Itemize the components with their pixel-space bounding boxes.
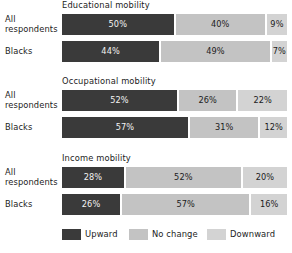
segment-value-label: 9% — [270, 20, 283, 29]
group-title: Income mobility — [62, 153, 131, 163]
segment-value-label: 16% — [260, 200, 279, 209]
legend-item: Downward — [207, 228, 275, 240]
segment-value-label: 26% — [198, 96, 217, 105]
legend-swatch-upward — [62, 229, 81, 240]
bar-segment-upward: 26% — [62, 194, 120, 215]
row-label: Allrespondents — [5, 91, 60, 110]
group-title: Occupational mobility — [62, 76, 156, 86]
legend-swatch-downward — [207, 229, 226, 240]
group-title: Educational mobility — [62, 0, 150, 10]
legend-item: Upward — [62, 228, 118, 240]
legend-label: Downward — [230, 229, 275, 239]
bar-segment-nochange: 31% — [190, 117, 259, 138]
stacked-bar-chart: Educational mobilityAllrespondents50%40%… — [0, 0, 292, 253]
chart-legend: UpwardNo changeDownward — [0, 228, 292, 242]
bar-segment-nochange: 52% — [126, 167, 241, 188]
row-label-line: Blacks — [5, 47, 60, 57]
segment-value-label: 22% — [253, 96, 272, 105]
chart-row: Allrespondents52%26%22% — [0, 90, 292, 111]
segment-value-label: 40% — [211, 20, 230, 29]
bar-segment-nochange: 26% — [179, 90, 236, 111]
bar-segment-downward: 16% — [251, 194, 287, 215]
bar-track: 28%52%20% — [62, 167, 287, 188]
bar-segment-upward: 52% — [62, 90, 177, 111]
bar-track: 44%49%7% — [62, 41, 287, 62]
bar-segment-upward: 44% — [62, 41, 159, 62]
bar-segment-upward: 50% — [62, 14, 174, 35]
segment-value-label: 28% — [84, 173, 103, 182]
segment-value-label: 12% — [264, 123, 283, 132]
segment-value-label: 52% — [110, 96, 129, 105]
segment-value-label: 52% — [174, 173, 193, 182]
legend-label: Upward — [85, 229, 118, 239]
chart-row: Allrespondents50%40%9% — [0, 14, 292, 35]
legend-item: No change — [129, 228, 198, 240]
segment-value-label: 49% — [206, 47, 225, 56]
bar-segment-downward: 12% — [260, 117, 287, 138]
bar-track: 52%26%22% — [62, 90, 287, 111]
row-label: Blacks — [5, 123, 60, 133]
chart-row: Allrespondents28%52%20% — [0, 167, 292, 188]
row-label-line: Blacks — [5, 200, 60, 210]
bar-segment-upward: 57% — [62, 117, 188, 138]
bar-track: 50%40%9% — [62, 14, 287, 35]
row-label-line: respondents — [5, 25, 60, 35]
row-label-line: respondents — [5, 101, 60, 111]
row-label: Allrespondents — [5, 15, 60, 34]
bar-segment-downward: 7% — [272, 41, 287, 62]
bar-segment-upward: 28% — [62, 167, 124, 188]
segment-value-label: 20% — [256, 173, 275, 182]
chart-row: Blacks57%31%12% — [0, 117, 292, 138]
bar-segment-downward: 22% — [238, 90, 287, 111]
bar-segment-nochange: 49% — [161, 41, 269, 62]
legend-label: No change — [152, 229, 198, 239]
row-label: Blacks — [5, 47, 60, 57]
bar-segment-nochange: 40% — [176, 14, 265, 35]
bar-track: 57%31%12% — [62, 117, 287, 138]
segment-value-label: 44% — [101, 47, 120, 56]
segment-value-label: 57% — [116, 123, 135, 132]
row-label: Blacks — [5, 200, 60, 210]
segment-value-label: 7% — [273, 47, 286, 56]
bar-segment-nochange: 57% — [122, 194, 249, 215]
bar-segment-downward: 9% — [267, 14, 287, 35]
segment-value-label: 57% — [176, 200, 195, 209]
bar-track: 26%57%16% — [62, 194, 287, 215]
row-label: Allrespondents — [5, 168, 60, 187]
legend-swatch-no-change — [129, 229, 148, 240]
bar-segment-downward: 20% — [243, 167, 287, 188]
segment-value-label: 31% — [215, 123, 234, 132]
chart-row: Blacks26%57%16% — [0, 194, 292, 215]
row-label-line: respondents — [5, 178, 60, 188]
segment-value-label: 50% — [109, 20, 128, 29]
row-label-line: Blacks — [5, 123, 60, 133]
segment-value-label: 26% — [82, 200, 101, 209]
chart-row: Blacks44%49%7% — [0, 41, 292, 62]
